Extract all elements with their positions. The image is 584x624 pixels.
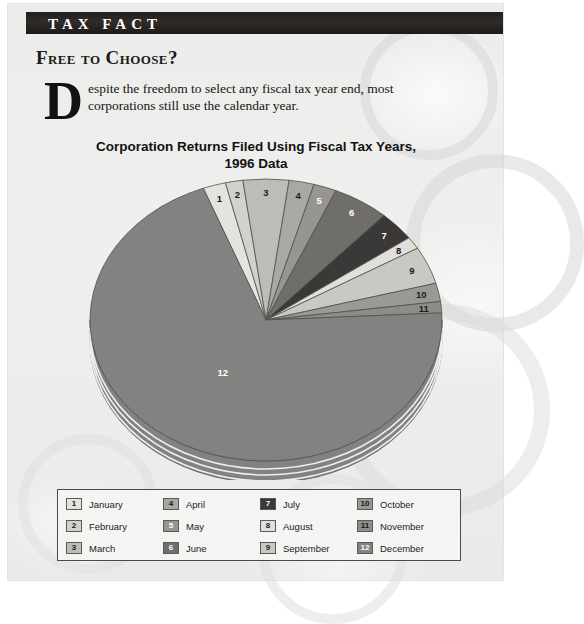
legend-item: 12December (357, 537, 454, 559)
legend-swatch: 1 (66, 498, 82, 510)
pie-slice-label: 6 (349, 207, 354, 218)
pie-chart-svg: 123456789101112 (80, 170, 450, 480)
legend-label: November (380, 521, 424, 532)
pie-slice-label: 2 (235, 189, 240, 200)
pie-slice-label: 12 (217, 367, 228, 378)
legend-item: 1January (66, 493, 163, 515)
legend-swatch: 5 (163, 520, 179, 532)
pie-slice-label: 8 (396, 245, 401, 256)
legend-item: 3March (66, 537, 163, 559)
chart-legend: 1January4April7July10October2February5Ma… (57, 489, 461, 561)
legend-swatch: 8 (260, 520, 276, 532)
legend-swatch: 6 (163, 542, 179, 554)
legend-label: July (283, 499, 300, 510)
pie-slice-label: 9 (409, 265, 414, 276)
legend-grid: 1January4April7July10October2February5Ma… (58, 490, 460, 560)
legend-label: January (89, 499, 123, 510)
legend-item: 2February (66, 515, 163, 537)
legend-swatch: 9 (260, 542, 276, 554)
banner-title: TAX FACT (48, 14, 162, 34)
tax-fact-banner: TAX FACT (26, 12, 503, 34)
legend-label: April (186, 499, 205, 510)
chart-title-line1: Corporation Returns Filed Using Fiscal T… (86, 138, 426, 155)
legend-swatch: 11 (357, 520, 373, 532)
legend-swatch: 4 (163, 498, 179, 510)
legend-swatch: 10 (357, 498, 373, 510)
pie-slice-label: 7 (382, 230, 387, 241)
legend-item: 6June (163, 537, 260, 559)
page-sheet: TAX FACT Free to Choose? Despite the fre… (8, 4, 503, 580)
legend-label: March (89, 543, 115, 554)
chart-title: Corporation Returns Filed Using Fiscal T… (86, 138, 426, 172)
legend-label: August (283, 521, 313, 532)
pie-slice-label: 10 (416, 289, 427, 300)
legend-label: May (186, 521, 204, 532)
legend-label: June (186, 543, 207, 554)
legend-label: December (380, 543, 424, 554)
pie-slices (90, 179, 442, 461)
legend-item: 5May (163, 515, 260, 537)
legend-label: October (380, 499, 414, 510)
lede-text: espite the freedom to select any fiscal … (88, 81, 394, 113)
legend-swatch: 2 (66, 520, 82, 532)
lede-paragraph: Despite the freedom to select any fiscal… (44, 80, 464, 119)
legend-label: September (283, 543, 329, 554)
legend-label: February (89, 521, 127, 532)
pie-slice-label: 1 (217, 193, 223, 204)
pie-chart: 123456789101112 (80, 170, 450, 480)
legend-item: 11November (357, 515, 454, 537)
legend-item: 4April (163, 493, 260, 515)
pie-slice-label: 4 (295, 190, 301, 201)
pie-slice-label: 11 (419, 303, 430, 314)
legend-item: 7July (260, 493, 357, 515)
page-title: Free to Choose? (36, 47, 178, 69)
legend-item: 10October (357, 493, 454, 515)
pie-slice-label: 3 (263, 187, 268, 198)
legend-swatch: 7 (260, 498, 276, 510)
drop-cap: D (44, 81, 83, 121)
pie-slice-label: 5 (317, 195, 323, 206)
legend-swatch: 3 (66, 542, 82, 554)
legend-swatch: 12 (357, 542, 373, 554)
legend-item: 9September (260, 537, 357, 559)
legend-item: 8August (260, 515, 357, 537)
